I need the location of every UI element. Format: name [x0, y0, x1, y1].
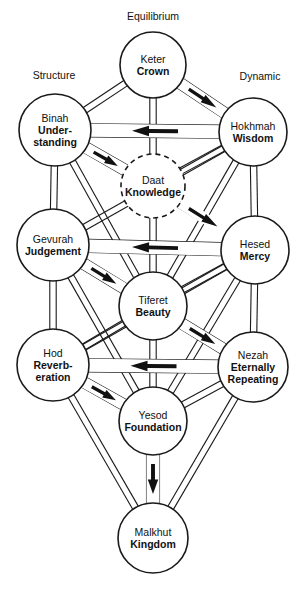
node-nezah[interactable]: NezahEternallyRepeating — [218, 332, 288, 402]
pillar-label-structure: Structure — [33, 69, 76, 81]
node-gevurah[interactable]: GevurahJudgement — [17, 209, 89, 281]
flow-hokhmah-to-binah — [91, 124, 219, 138]
node-meaning-malkhut: Kingdom — [130, 538, 176, 550]
tree-of-life-diagram: KeterCrownBinahUnder-standingHokhmahWisd… — [0, 0, 307, 591]
flow-gevurah-to-tiferet — [81, 259, 127, 293]
node-keter[interactable]: KeterCrown — [120, 32, 186, 98]
path-hokhmah-to-hesed — [250, 166, 251, 216]
path-binah-to-gevurah — [57, 166, 58, 209]
path-hesed-to-nezah — [257, 284, 258, 332]
node-name-hokhmah: Hokhmah — [231, 120, 276, 132]
node-hesed[interactable]: HesedMercy — [221, 216, 289, 284]
flow-daat-to-hesed — [177, 198, 229, 236]
node-name-hesed: Hesed — [240, 238, 271, 250]
node-meaning-nezah: Repeating — [228, 373, 279, 385]
flow-hod-to-yesod — [82, 378, 126, 409]
node-meaning-yesod: Foundation — [124, 421, 181, 433]
path-tiferet-to-hod — [86, 326, 126, 349]
node-name-daat: Daat — [142, 174, 164, 186]
node-meaning-hod: Reverb- — [33, 359, 73, 371]
path-hokhmah-to-hesed — [257, 166, 258, 216]
node-name-malkhut: Malkhut — [135, 526, 172, 538]
node-yesod[interactable]: YesodFoundation — [119, 387, 187, 455]
path-binah-to-gevurah — [50, 166, 51, 209]
flow-tiferet-to-nezah — [179, 319, 226, 353]
node-meaning-binah: standing — [33, 136, 77, 148]
node-meaning-hokhmah: Wisdom — [233, 132, 274, 144]
node-meaning-hesed: Mercy — [240, 250, 271, 262]
node-hod[interactable]: HodReverb-eration — [17, 329, 89, 401]
path-keter-to-binah — [83, 81, 124, 108]
path-hokhmah-to-daat — [183, 151, 225, 174]
node-tiferet[interactable]: TiferetBeauty — [119, 272, 187, 340]
node-meaning-hod: eration — [35, 371, 70, 383]
node-name-binah: Binah — [42, 112, 69, 124]
node-binah[interactable]: BinahUnder-standing — [19, 94, 91, 166]
node-name-yesod: Yesod — [139, 409, 168, 421]
flow-yesod-to-malkhut — [147, 455, 160, 503]
flow-keter-to-hokhmah — [177, 79, 227, 118]
pillar-label-dynamic: Dynamic — [240, 70, 281, 82]
node-meaning-daat: Knowledge — [125, 186, 181, 198]
node-name-tiferet: Tiferet — [138, 294, 167, 306]
path-hesed-to-nezah — [250, 284, 251, 332]
node-meaning-binah: Under- — [38, 124, 72, 136]
node-name-gevurah: Gevurah — [33, 233, 73, 245]
node-meaning-tiferet: Beauty — [135, 306, 170, 318]
node-malkhut[interactable]: MalkhutKingdom — [118, 503, 188, 573]
pillar-label-equilibrium: Equilibrium — [127, 10, 179, 22]
node-daat[interactable]: DaatKnowledge — [121, 154, 185, 218]
node-meaning-nezah: Eternally — [231, 361, 276, 373]
path-hesed-to-tiferet — [184, 269, 226, 292]
node-meaning-gevurah: Judgement — [25, 245, 82, 257]
node-hokhmah[interactable]: HokhmahWisdom — [219, 98, 287, 166]
flow-binah-to-daat — [84, 143, 128, 175]
node-name-keter: Keter — [140, 53, 166, 65]
node-name-nezah: Nezah — [238, 349, 269, 361]
flow-nezah-to-hod — [89, 359, 218, 373]
tree-of-life-canvas: KeterCrownBinahUnder-standingHokhmahWisd… — [0, 0, 307, 591]
node-meaning-keter: Crown — [137, 65, 170, 77]
node-name-hod: Hod — [43, 347, 62, 359]
path-keter-to-binah — [87, 86, 128, 113]
